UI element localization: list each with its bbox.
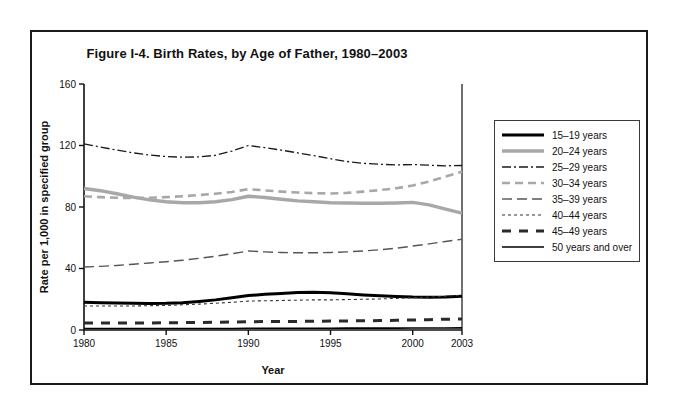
y-axis-tick-label: 40 xyxy=(65,263,77,274)
x-axis-tick-label: 1990 xyxy=(237,338,260,349)
legend-item-label: 15–19 years xyxy=(552,130,607,141)
y-axis-tick-label: 0 xyxy=(70,325,76,336)
legend-item[interactable]: 15–19 years xyxy=(501,127,633,143)
x-axis-tick-label: 1995 xyxy=(319,338,342,349)
series-line xyxy=(84,319,462,323)
series-line xyxy=(84,328,462,329)
legend-item[interactable]: 40–44 years xyxy=(501,207,633,223)
y-axis-tick-label: 120 xyxy=(59,140,76,151)
figure-frame: Figure I-4. Birth Rates, by Age of Fathe… xyxy=(30,30,648,385)
legend-item[interactable]: 45–49 years xyxy=(501,223,633,239)
legend-item[interactable]: 20–24 years xyxy=(501,143,633,159)
legend-item[interactable]: 25–29 years xyxy=(501,159,633,175)
series-line xyxy=(84,144,462,166)
y-axis-title: Rate per 1,000 in specified group xyxy=(38,121,50,294)
legend-line-swatch xyxy=(501,176,545,190)
legend-item-label: 35–39 years xyxy=(552,194,607,205)
legend-item-label: 40–44 years xyxy=(552,210,607,221)
chart-legend: 15–19 years20–24 years25–29 years30–34 y… xyxy=(494,120,640,262)
legend-line-swatch xyxy=(501,160,545,174)
legend-line-swatch xyxy=(501,240,545,254)
legend-item[interactable]: 30–34 years xyxy=(501,175,633,191)
x-axis-tick-label: 2000 xyxy=(402,338,425,349)
x-axis-tick-label: 1980 xyxy=(73,338,96,349)
legend-line-swatch xyxy=(501,128,545,142)
legend-item-label: 30–34 years xyxy=(552,178,607,189)
series-line xyxy=(84,172,462,198)
legend-item-label: 20–24 years xyxy=(552,146,607,157)
series-line xyxy=(84,239,462,267)
legend-line-swatch xyxy=(501,192,545,206)
y-axis-tick-label: 160 xyxy=(59,79,76,90)
x-axis-title: Year xyxy=(261,364,285,376)
legend-item-label: 50 years and over xyxy=(552,242,632,253)
legend-line-swatch xyxy=(501,224,545,238)
y-axis-tick-label: 80 xyxy=(65,202,77,213)
legend-line-swatch xyxy=(501,208,545,222)
legend-item[interactable]: 35–39 years xyxy=(501,191,633,207)
legend-item-label: 25–29 years xyxy=(552,162,607,173)
x-axis-tick-label: 2003 xyxy=(451,338,474,349)
series-line xyxy=(84,292,462,303)
legend-item[interactable]: 50 years and over xyxy=(501,239,633,255)
legend-line-swatch xyxy=(501,144,545,158)
x-axis-tick-label: 1985 xyxy=(155,338,178,349)
legend-item-label: 45–49 years xyxy=(552,226,607,237)
